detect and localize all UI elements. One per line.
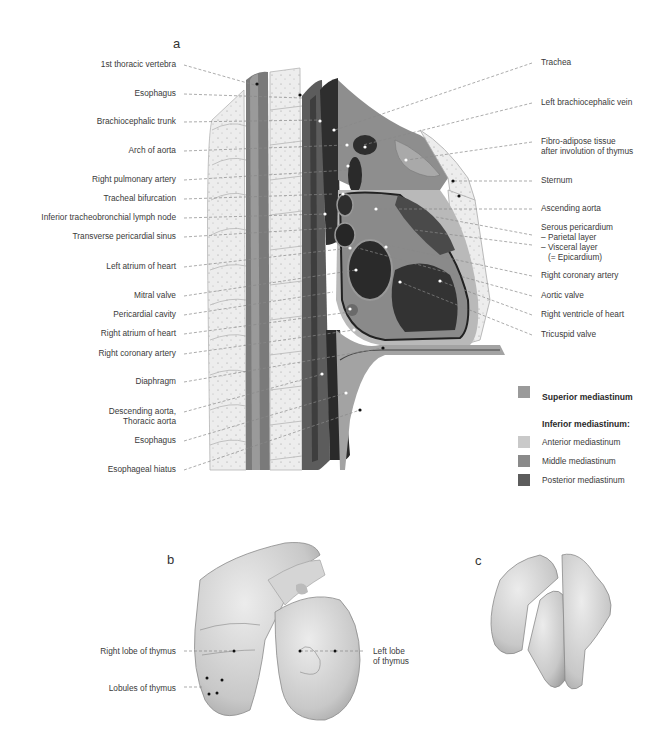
swatch-posterior [518, 474, 530, 486]
label-right-pulmonary-artery: Right pulmonary artery [92, 174, 176, 184]
label-pericardial-cavity: Pericardial cavity [113, 309, 176, 319]
panel-b-letter: b [167, 552, 174, 567]
swatch-anterior [518, 436, 530, 448]
legend-superior-label: Superior mediastinum [542, 392, 633, 402]
anatomical-illustration [0, 0, 672, 745]
thymus-child [194, 543, 360, 721]
label-serous-pericardium: Serous pericardium – Parietal layer – Vi… [541, 222, 613, 262]
label-diaphragm: Diaphragm [135, 376, 176, 386]
label-descending-aorta: Descending aorta, Thoracic aorta [109, 406, 176, 426]
label-inferior-tracheobronchial-lymph-node: Inferior tracheobronchial lymph node [41, 212, 176, 222]
legend-middle-label: Middle mediastinum [542, 456, 616, 466]
panel-c-letter: c [475, 553, 482, 568]
legend-posterior: Posterior mediastinum [518, 474, 625, 486]
label-sternum: Sternum [541, 175, 572, 185]
label-brachiocephalic-trunk: Brachiocephalic trunk [97, 116, 176, 126]
legend-middle: Middle mediastinum [518, 455, 616, 467]
label-left-atrium: Left atrium of heart [106, 261, 176, 271]
label-transverse-pericardial-sinus: Transverse pericardial sinus [73, 231, 176, 241]
label-mitral-valve: Mitral valve [134, 290, 176, 300]
label-lobules-thymus: Lobules of thymus [109, 683, 176, 693]
superior-mediastinum [338, 80, 450, 193]
label-right-coronary-artery-left: Right coronary artery [99, 348, 176, 358]
label-left-lobe-thymus: Left lobe of thymus [373, 646, 409, 666]
legend-posterior-label: Posterior mediastinum [542, 475, 625, 485]
label-right-ventricle: Right ventricle of heart [541, 309, 624, 319]
label-esophageal-hiatus: Esophageal hiatus [108, 464, 176, 474]
swatch-middle [518, 455, 530, 467]
legend-inferior-title: Inferior mediastinum: [542, 419, 630, 429]
label-1st-thoracic-vertebra: 1st thoracic vertebra [101, 59, 176, 69]
label-aortic-valve: Aortic valve [541, 290, 584, 300]
legend-anterior-label: Anterior mediastinum [542, 437, 620, 447]
swatch-superior [518, 386, 530, 398]
label-right-lobe-thymus: Right lobe of thymus [100, 646, 176, 656]
diaphragm [336, 330, 505, 470]
label-tracheal-bifurcation: Tracheal bifurcation [103, 193, 176, 203]
label-esophagus-upper: Esophagus [134, 88, 176, 98]
legend-inferior-title-row: Inferior mediastinum: [542, 419, 630, 429]
label-left-brachiocephalic-vein: Left brachiocephalic vein [541, 97, 632, 107]
thymus-adult [491, 554, 611, 689]
label-ascending-aorta: Ascending aorta [541, 203, 601, 213]
label-arch-of-aorta: Arch of aorta [128, 145, 176, 155]
legend-anterior: Anterior mediastinum [518, 436, 620, 448]
panel-a-letter: a [173, 36, 180, 51]
label-right-coronary-artery-right: Right coronary artery [541, 270, 618, 280]
label-right-atrium: Right atrium of heart [101, 328, 176, 338]
label-trachea: Trachea [541, 57, 571, 67]
legend-superior: Superior mediastinum [518, 386, 633, 398]
label-fibro-adipose-tissue: Fibro-adipose tissue after involution of… [541, 136, 633, 156]
label-esophagus-lower: Esophagus [134, 435, 176, 445]
vertebral-column [208, 68, 303, 470]
label-tricuspid-valve: Tricuspid valve [541, 329, 596, 339]
